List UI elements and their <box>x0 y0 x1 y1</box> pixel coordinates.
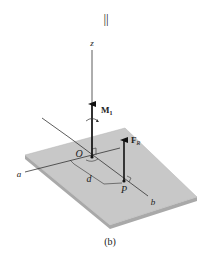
b-axis-upper <box>42 118 70 138</box>
statics-diagram: || z a b O M1 d P FR (b) <box>0 0 209 255</box>
figure-caption: (b) <box>104 236 116 248</box>
point-p-label: P <box>120 184 127 195</box>
b-axis-label: b <box>151 197 156 207</box>
moment-label: M1 <box>101 105 113 116</box>
plate-top <box>25 128 197 225</box>
force-label: FR <box>131 135 141 146</box>
z-axis-label: z <box>89 38 94 48</box>
equals-sign: || <box>103 11 108 26</box>
origin-label: O <box>75 148 82 159</box>
a-axis-label: a <box>17 169 22 179</box>
moment-curl-arrow-icon <box>96 119 99 122</box>
